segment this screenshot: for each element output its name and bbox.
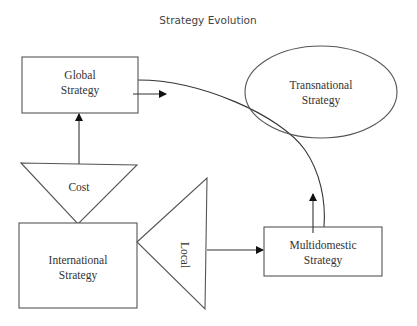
international-label-line2: Strategy <box>59 269 98 282</box>
global-label-line1: Global <box>64 69 95 81</box>
multidomestic-strategy-box <box>264 227 382 276</box>
diagram-title: Strategy Evolution <box>159 14 256 26</box>
local-label: Local <box>179 242 191 268</box>
cost-triangle <box>21 163 137 224</box>
strategy-evolution-diagram: Strategy Evolution Transnational Strateg… <box>0 0 417 326</box>
global-label-line2: Strategy <box>61 84 100 97</box>
multidomestic-label-line2: Strategy <box>304 254 343 267</box>
global-to-multidomestic-curve <box>138 80 324 227</box>
local-triangle <box>137 178 207 309</box>
transnational-ellipse <box>245 46 397 138</box>
cost-node: Cost <box>21 163 137 224</box>
international-label-line1: International <box>49 254 108 266</box>
multidomestic-label-line1: Multidomestic <box>289 239 356 251</box>
transnational-label-line2: Strategy <box>302 94 341 107</box>
local-node: Local <box>137 178 207 309</box>
global-strategy-node: Global Strategy <box>22 57 138 113</box>
international-strategy-node: International Strategy <box>19 223 137 308</box>
cost-label: Cost <box>68 181 90 193</box>
transnational-strategy-node: Transnational Strategy <box>245 46 397 138</box>
multidomestic-strategy-node: Multidomestic Strategy <box>264 227 382 276</box>
transnational-label-line1: Transnational <box>290 79 353 91</box>
